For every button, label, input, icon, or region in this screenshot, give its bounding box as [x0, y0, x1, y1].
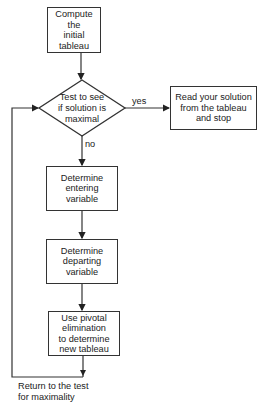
entering-line-2: entering [65, 183, 98, 194]
loop-line-1: Return to the test [18, 381, 88, 392]
pivot-line-1: Use pivotal [61, 313, 106, 324]
loop-line-2: for maximality [18, 392, 88, 403]
pivot-line-4: new tableau [59, 344, 109, 355]
start-line-1: Compute [55, 9, 92, 20]
departing-line-2: departing [63, 256, 101, 267]
yes-label: yes [132, 96, 146, 107]
decision-line-3: maximal [44, 114, 120, 125]
stop-line-3: and stop [196, 113, 231, 124]
start-line-3: initial [64, 30, 85, 41]
departing-box: Determine departing variable [46, 239, 118, 284]
start-line-2: the [68, 20, 81, 31]
pivot-box: Use pivotal elimination to determine new… [48, 311, 120, 356]
stop-box: Read your solution from the tableau and … [170, 86, 257, 130]
decision-text: Test to see if solution is maximal [44, 92, 120, 125]
decision-line-1: Test to see [44, 92, 120, 103]
departing-line-3: variable [66, 267, 98, 278]
entering-box: Determine entering variable [46, 166, 118, 211]
stop-line-1: Read your solution [175, 92, 252, 103]
no-label: no [85, 139, 95, 150]
start-box: Compute the initial tableau [47, 7, 101, 53]
stop-line-2: from the tableau [180, 103, 246, 114]
entering-line-3: variable [66, 194, 98, 205]
entering-line-1: Determine [61, 173, 103, 184]
pivot-line-3: to determine [58, 334, 109, 345]
pivot-line-2: elimination [62, 323, 106, 334]
loop-label: Return to the test for maximality [18, 381, 88, 402]
start-line-4: tableau [59, 41, 89, 52]
flowchart-connectors [0, 0, 267, 403]
decision-line-2: if solution is [44, 103, 120, 114]
departing-line-1: Determine [61, 246, 103, 257]
